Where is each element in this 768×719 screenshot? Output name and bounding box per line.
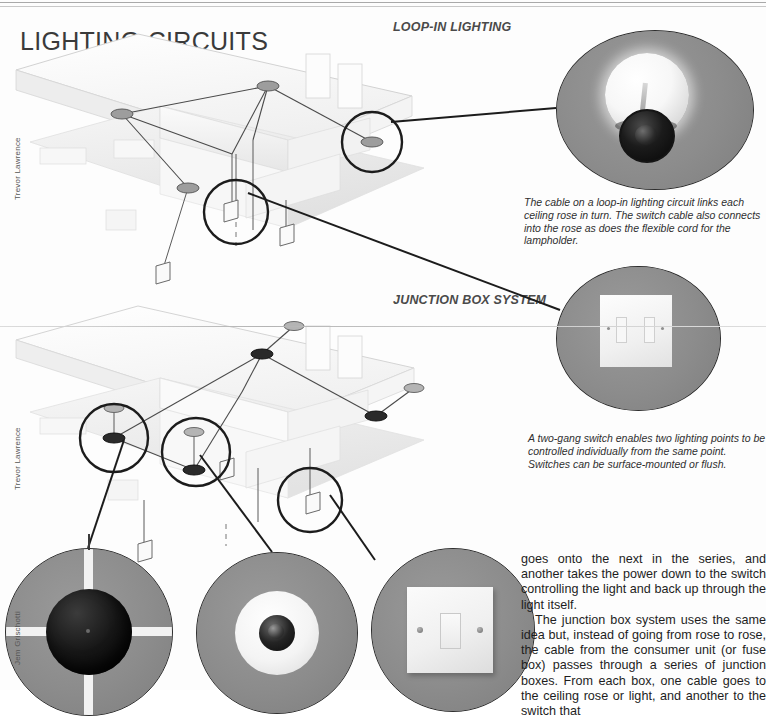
screw-icon xyxy=(607,327,610,330)
lampholder-icon xyxy=(619,109,675,163)
body-paragraph-2: The junction box system uses the same id… xyxy=(521,613,766,719)
photo-black-ceiling-rose xyxy=(5,548,173,716)
rocker-switch-icon xyxy=(616,317,627,343)
rocker-switch-icon xyxy=(440,613,461,649)
one-gang-switch-plate xyxy=(407,587,493,673)
caption-loop-in: The cable on a loop-in lighting circuit … xyxy=(524,196,764,247)
two-gang-switch-plate xyxy=(600,295,672,367)
diagram-loop-in-lighting xyxy=(10,22,430,312)
credit-jem-grischotti: Jem Grischotti xyxy=(13,611,22,665)
ceiling-rose-icon xyxy=(46,589,132,675)
header-rule-upper xyxy=(0,2,766,3)
screw-icon xyxy=(417,627,423,633)
diagram-junction-box-system xyxy=(10,300,430,570)
credit-trevor-lawrence-middle: Trevor Lawrence xyxy=(13,427,22,490)
screw-icon xyxy=(477,627,483,633)
credit-trevor-lawrence-top: Trevor Lawrence xyxy=(13,137,22,200)
photo-bulb-lampholder xyxy=(556,30,754,190)
lampholder-icon xyxy=(259,615,295,651)
body-paragraph-1: goes onto the next in the series, and an… xyxy=(521,552,766,613)
body-text-column: goes onto the next in the series, and an… xyxy=(521,552,766,719)
screw-icon xyxy=(661,327,664,330)
photo-white-ceiling-rose xyxy=(196,552,358,714)
caption-two-gang: A two-gang switch enables two lighting p… xyxy=(528,432,768,470)
rocker-switch-icon xyxy=(644,317,655,343)
photo-one-gang-switch xyxy=(371,548,535,712)
rose-cord xyxy=(88,534,90,550)
photo-two-gang-switch xyxy=(556,266,721,411)
header-rule-lower xyxy=(0,6,766,7)
page-scan-line xyxy=(0,326,766,327)
